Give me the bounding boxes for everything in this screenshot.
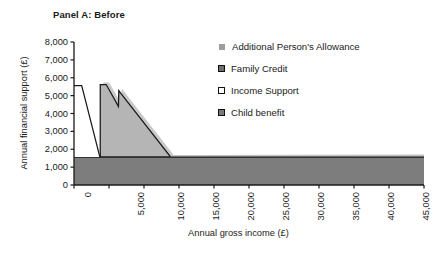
legend-swatch-income-support-icon — [218, 87, 225, 94]
y-tick-label: 4,000 — [28, 109, 68, 119]
legend-item[interactable]: Child benefit — [218, 102, 433, 123]
legend-item[interactable]: Family Credit — [218, 58, 433, 79]
legend-swatch-family-credit-icon — [218, 65, 225, 72]
series-area-family-credit — [100, 85, 170, 158]
x-tick-label: 10,000 — [176, 192, 186, 220]
legend-swatch-additional-persons-allowance-icon — [219, 44, 225, 50]
y-tick-label: 6,000 — [28, 73, 68, 83]
x-tick-label: 5,000 — [136, 192, 146, 215]
y-tick-label: 5,000 — [28, 91, 68, 101]
x-axis-title-text: Annual gross income (£) — [148, 228, 289, 238]
x-tick-label: 25,000 — [281, 192, 291, 220]
series-area-child-benefit — [74, 157, 424, 185]
x-axis-title: Annual gross income (£) — [0, 228, 437, 238]
legend-item-label: Family Credit — [231, 64, 288, 74]
x-tick-label: 40,000 — [386, 192, 396, 220]
x-tick-label: 30,000 — [316, 192, 326, 220]
legend-item-label: Income Support — [231, 86, 299, 96]
x-tick-label: 35,000 — [351, 192, 361, 220]
chart-legend: Additional Person's AllowanceFamily Cred… — [218, 36, 433, 124]
y-tick-label: 1,000 — [28, 162, 68, 172]
legend-item[interactable]: Income Support — [218, 80, 433, 101]
x-tick-label: 0 — [83, 192, 93, 197]
x-tick-label: 45,000 — [421, 192, 431, 220]
y-tick-label: 3,000 — [28, 126, 68, 136]
x-tick-label: 20,000 — [246, 192, 256, 220]
legend-item-label: Additional Person's Allowance — [232, 42, 360, 52]
y-tick-label: 7,000 — [28, 55, 68, 65]
series-area-income-support — [74, 86, 100, 157]
y-tick-label: 8,000 — [28, 37, 68, 47]
y-tick-label: 0 — [28, 180, 68, 190]
legend-swatch-child-benefit-icon — [218, 109, 225, 116]
panel-title: Panel A: Before — [53, 9, 125, 20]
x-tick-label: 15,000 — [211, 192, 221, 220]
chart-figure: Panel A: Before Annual financial support… — [0, 0, 437, 253]
y-tick-label: 2,000 — [28, 144, 68, 154]
legend-item-label: Child benefit — [231, 108, 284, 118]
legend-item[interactable]: Additional Person's Allowance — [218, 36, 433, 57]
